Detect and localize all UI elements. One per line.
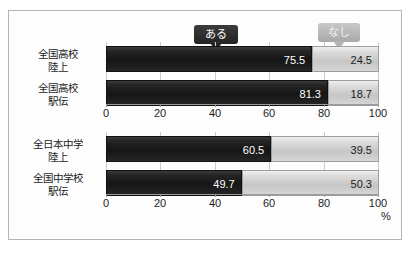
x-tick-label-20: 20 [140, 107, 180, 119]
table-row[interactable]: 75.5 24.5 [106, 46, 379, 72]
bar-segment-nashi: 39.5 [271, 136, 379, 162]
legend-label-aru: ある [205, 28, 228, 40]
row-label-line2: 陸上 [12, 151, 104, 164]
row-label-0: 全国高校 陸上 [12, 48, 104, 74]
x-tick-label-0: 0 [86, 197, 126, 209]
axis-unit-label: % [381, 210, 391, 222]
legend-callout-nashi[interactable]: なし [318, 23, 360, 42]
row-label-1: 全国高校 駅伝 [12, 82, 104, 108]
chart-figure: ある なし 75.5 24.5 81.3 [8, 10, 402, 240]
row-label-line2: 陸上 [12, 61, 104, 74]
bar-value-nashi: 39.5 [351, 137, 372, 163]
bar-value-nashi: 24.5 [351, 47, 372, 73]
bar-segment-aru: 75.5 [106, 46, 312, 72]
row-label-line1: 全国高校 [12, 48, 104, 61]
x-tick-label-40: 40 [195, 107, 235, 119]
bar-segment-nashi: 50.3 [242, 170, 379, 196]
bar-segment-nashi: 24.5 [312, 46, 379, 72]
x-tick-label-0: 0 [86, 107, 126, 119]
table-row[interactable]: 49.7 50.3 [106, 170, 379, 196]
chart-group-upper: 75.5 24.5 81.3 18.7 [106, 42, 379, 104]
x-tick-label-20: 20 [140, 197, 180, 209]
bar-segment-nashi: 18.7 [328, 80, 379, 106]
bar-value-aru: 75.5 [284, 47, 305, 73]
bar-value-aru: 60.5 [243, 137, 264, 163]
table-row[interactable]: 81.3 18.7 [106, 80, 379, 106]
row-label-line1: 全国高校 [12, 82, 104, 95]
axis-line [106, 194, 379, 195]
legend-label-nashi: なし [328, 26, 351, 38]
x-tick-label-60: 60 [249, 107, 289, 119]
bar-segment-aru: 49.7 [106, 170, 242, 196]
x-tick-label-60: 60 [249, 197, 289, 209]
x-tick-label-80: 80 [304, 107, 344, 119]
x-tick-label-100: 100 [358, 107, 398, 119]
row-label-2: 全日本中学 陸上 [12, 138, 104, 164]
row-label-line1: 全日本中学 [12, 138, 104, 151]
x-tick-label-40: 40 [195, 197, 235, 209]
chart-group-lower: 60.5 39.5 49.7 50.3 [106, 132, 379, 194]
row-label-3: 全国中学校 駅伝 [12, 172, 104, 198]
x-tick-label-80: 80 [304, 197, 344, 209]
bar-segment-aru: 81.3 [106, 80, 328, 106]
axis-line [106, 104, 379, 105]
table-row[interactable]: 60.5 39.5 [106, 136, 379, 162]
row-label-line1: 全国中学校 [12, 172, 104, 185]
x-tick-label-100: 100 [358, 197, 398, 209]
bar-segment-aru: 60.5 [106, 136, 271, 162]
